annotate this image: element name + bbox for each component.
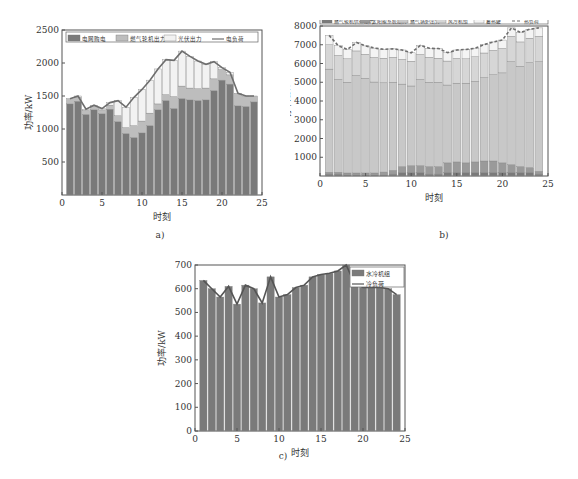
bar-segment <box>362 78 370 173</box>
bar-segment <box>343 49 351 58</box>
bar-segment <box>123 128 130 134</box>
bar-segment <box>267 277 274 431</box>
bar-segment <box>426 57 434 82</box>
legend: 燃气轮机供热出力太阳能系统出力燃气锅炉出力风冷机组蓄热罐热负荷 <box>320 20 548 25</box>
y-tick-label: 3000 <box>294 115 317 125</box>
legend-label: 燃气轮机出力 <box>130 35 166 43</box>
bar-segment <box>115 122 122 195</box>
bar-segment <box>444 85 452 163</box>
bar-segment <box>416 55 424 80</box>
bar-segment <box>444 163 452 172</box>
bar-segment <box>334 55 342 79</box>
y-tick-label: 2000 <box>294 134 317 144</box>
bar-segment <box>362 54 370 78</box>
y-tick-label: 2500 <box>36 25 59 35</box>
bar-segment <box>471 172 479 176</box>
bar-segment <box>301 285 308 431</box>
bar-segment <box>155 104 162 110</box>
bar-segment <box>251 102 258 195</box>
legend-label: 光伏出力 <box>178 35 202 43</box>
bar-segment <box>123 107 130 127</box>
bar-segment <box>508 62 516 165</box>
bar-segment <box>435 49 443 59</box>
bar-segment <box>453 58 461 83</box>
y-tick-label: 100 <box>175 402 192 412</box>
x-tick-label: 20 <box>357 434 369 444</box>
bar-segment <box>325 35 333 44</box>
bar-segment <box>426 82 434 166</box>
bar-segment <box>416 166 424 173</box>
bar-segment <box>444 172 452 176</box>
bar-segment <box>334 174 342 176</box>
bar-segment <box>309 277 316 431</box>
bar-segment <box>284 295 291 431</box>
caption-c: c) <box>263 451 303 461</box>
bar-segment <box>426 48 434 57</box>
bar-segment <box>219 80 226 195</box>
y-tick-label: 5000 <box>294 77 317 87</box>
x-tick-label: 25 <box>399 434 411 444</box>
bar-segment <box>389 57 397 82</box>
x-tick-label: 25 <box>542 179 554 189</box>
bar-segment <box>526 38 534 62</box>
y-tick-label: 8000 <box>294 21 317 31</box>
bar-segment <box>389 174 397 176</box>
y-axis-label: 功率/kW <box>23 94 34 130</box>
chart-panel-b: 0510152025100020003000400050006000700080… <box>290 20 578 245</box>
bar-segment <box>83 114 90 195</box>
legend-label: 电网购电 <box>82 35 106 43</box>
bar-segment <box>217 297 224 431</box>
y-axis-label: 功率/kW <box>290 82 292 118</box>
bar-segment <box>139 89 146 121</box>
y-tick-label: 500 <box>175 307 192 317</box>
bar-segment <box>147 80 154 113</box>
bar-segment <box>187 100 194 195</box>
bar-segment <box>535 171 543 174</box>
y-tick-label: 300 <box>175 355 192 365</box>
chart-panel-a: 05101520255001000150020002500时刻功率/kW电网购电… <box>0 0 290 245</box>
bar-segment <box>75 101 82 195</box>
bar-segment <box>398 59 406 84</box>
bar-segment <box>393 295 400 431</box>
bar-segment <box>462 49 470 58</box>
bar-segment <box>407 86 415 166</box>
bar-segment <box>353 76 361 174</box>
caption-a: a) <box>140 230 180 240</box>
y-tick-label: 400 <box>175 331 192 341</box>
chart-c-svg: 05101520250100200300400500600700时刻功率/kW水… <box>150 245 430 470</box>
bar-segment <box>517 42 525 66</box>
bar-segment <box>526 172 534 176</box>
legend-label: 电负荷 <box>226 35 244 43</box>
bar-segment <box>251 96 258 102</box>
bar-segment <box>195 89 202 101</box>
x-axis-label: 时刻 <box>153 211 171 222</box>
bar-segment <box>380 49 388 58</box>
bar-segment <box>334 271 341 431</box>
bar-segment <box>471 57 479 82</box>
bar-segment <box>389 49 397 57</box>
bar-segment <box>416 172 424 176</box>
bar-segment <box>508 36 516 61</box>
x-tick-label: 10 <box>136 198 148 208</box>
bar-segment <box>498 163 506 172</box>
bar-segment <box>343 173 351 175</box>
bar-segment <box>99 114 106 195</box>
bar-segment <box>131 138 138 195</box>
bar-segment <box>235 93 242 106</box>
bar-segment <box>211 91 218 195</box>
x-tick-label: 25 <box>256 198 268 208</box>
bar-segment <box>426 167 434 175</box>
bar-segment <box>171 109 178 195</box>
bar-segment <box>259 303 266 431</box>
bar-segment <box>416 79 424 165</box>
bar-segment <box>508 172 516 176</box>
bar-segment <box>99 110 106 114</box>
bar-segment <box>535 28 543 36</box>
bar-segment <box>325 172 333 174</box>
bar-segment <box>211 79 218 91</box>
chart-b-svg: 0510152025100020003000400050006000700080… <box>290 20 578 245</box>
bar-segment <box>233 304 240 431</box>
bar-segment <box>371 82 379 173</box>
bar-segment <box>139 121 146 133</box>
x-tick-label: 10 <box>273 434 285 444</box>
